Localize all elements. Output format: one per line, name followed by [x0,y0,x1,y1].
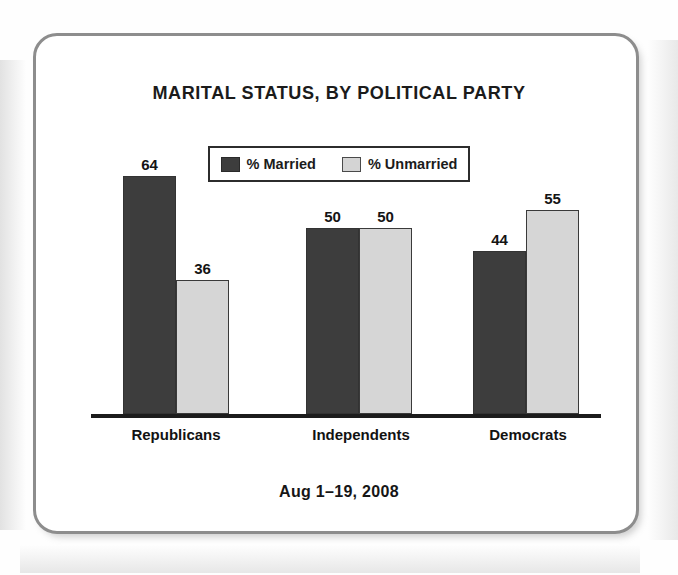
bar-republicans-married: 64 [123,157,176,414]
bar-value-label: 44 [491,232,508,247]
x-tick-label-independents: Independents [281,426,441,443]
bar-rect-unmarried [526,210,579,414]
plot-area: 64 36 50 50 44 [36,36,642,537]
bar-value-label: 50 [324,209,341,224]
bar-rect-married [473,251,526,414]
bar-rect-married [123,176,176,414]
bar-independents-unmarried: 50 [359,209,412,414]
bar-rect-unmarried [176,280,229,414]
x-axis-category-labels: Republicans Independents Democrats [36,426,642,450]
bar-value-label: 50 [377,209,394,224]
chart-footnote-date-range: Aug 1–19, 2008 [36,483,642,501]
x-tick-label-democrats: Democrats [448,426,608,443]
bar-republicans-unmarried: 36 [176,261,229,414]
bar-group-independents: 50 50 [306,154,412,414]
bar-group-democrats: 44 55 [473,154,579,414]
bar-rect-married [306,228,359,414]
bar-independents-married: 50 [306,209,359,414]
x-tick-label-republicans: Republicans [96,426,256,443]
bar-democrats-married: 44 [473,232,526,414]
bar-rect-unmarried [359,228,412,414]
bar-democrats-unmarried: 55 [526,191,579,414]
bar-value-label: 64 [141,157,158,172]
x-axis-baseline [91,414,601,418]
bar-value-label: 55 [544,191,561,206]
chart-card: MARITAL STATUS, BY POLITICAL PARTY % Mar… [33,33,639,534]
bar-group-republicans: 64 36 [123,154,229,414]
bar-value-label: 36 [194,261,211,276]
